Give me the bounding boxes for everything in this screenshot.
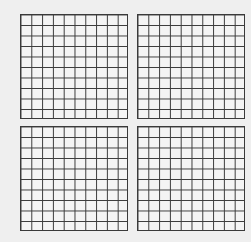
- hundred-grid-bottom-left: [20, 126, 128, 231]
- hundred-grid-top-left: [20, 14, 128, 119]
- hundred-grid-bottom-right: [137, 126, 245, 231]
- hundred-grid-top-right: [137, 14, 245, 119]
